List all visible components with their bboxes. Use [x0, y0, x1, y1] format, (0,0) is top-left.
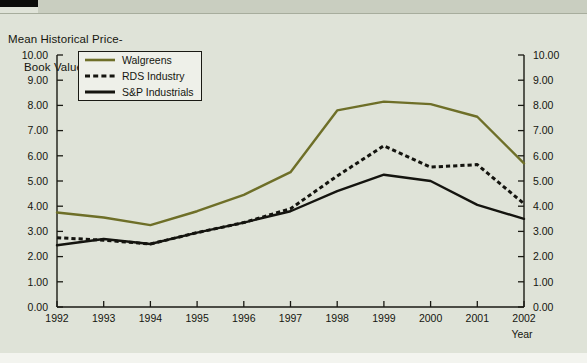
x-axis-title: Year — [511, 328, 533, 340]
y-axis-tick-label-left: 10.00 — [22, 49, 48, 61]
legend-item-walgreens: Walgreens — [79, 52, 201, 68]
solid-line-swatch-icon — [84, 55, 116, 65]
y-axis-tick-label-left: 9.00 — [28, 74, 49, 86]
x-axis-tick-label: 1997 — [279, 312, 303, 324]
dashed-line-swatch-icon — [84, 71, 116, 81]
series-line-s-p-industrials — [57, 175, 524, 246]
y-axis-tick-label-right: 2.00 — [533, 250, 554, 262]
x-axis-tick-label: 1999 — [372, 312, 396, 324]
bottom-strip-decoration — [0, 353, 587, 363]
x-axis-tick-label: 1994 — [139, 312, 163, 324]
y-axis-tick-label-left: 5.00 — [28, 175, 49, 187]
legend-label-sp-industrials: S&P Industrials — [122, 87, 194, 98]
x-axis-tick-label: 1996 — [232, 312, 256, 324]
solid-line-swatch-icon — [84, 87, 116, 97]
y-axis-tick-label-right: 7.00 — [533, 124, 554, 136]
x-axis-tick-label: 1998 — [326, 312, 350, 324]
y-axis-tick-label-left: 2.00 — [28, 250, 49, 262]
series-line-walgreens — [57, 102, 524, 225]
y-axis-tick-label-left: 7.00 — [28, 124, 49, 136]
y-axis-tick-label-right: 1.00 — [533, 276, 554, 288]
y-axis-tick-label-left: 0.00 — [28, 301, 49, 313]
y-axis-tick-label-left: 8.00 — [28, 99, 49, 111]
chart-legend: Walgreens RDS Industry S&P Industrials — [78, 51, 202, 101]
x-axis-tick-label: 1995 — [185, 312, 209, 324]
x-axis-tick-label: 1993 — [92, 312, 116, 324]
y-axis-tick-label-right: 6.00 — [533, 150, 554, 162]
x-axis-tick-label: 1992 — [45, 312, 69, 324]
y-axis-tick-label-left: 1.00 — [28, 276, 49, 288]
y-axis-tick-label-right: 3.00 — [533, 225, 554, 237]
legend-label-walgreens: Walgreens — [122, 55, 172, 66]
chart-page: Mean Historical Price- Book Value Ratios… — [0, 0, 587, 363]
y-axis-tick-label-right: 10.00 — [533, 49, 559, 61]
y-axis-tick-label-right: 0.00 — [533, 301, 554, 313]
x-axis-tick-label: 2001 — [466, 312, 490, 324]
y-axis-tick-label-left: 6.00 — [28, 150, 49, 162]
legend-item-sp-industrials: S&P Industrials — [79, 84, 201, 100]
legend-label-rds-industry: RDS Industry — [122, 71, 184, 82]
y-axis-tick-label-right: 8.00 — [533, 99, 554, 111]
x-axis-tick-label: 2002 — [512, 312, 536, 324]
y-axis-tick-label-left: 4.00 — [28, 200, 49, 212]
legend-item-rds-industry: RDS Industry — [79, 68, 201, 84]
y-axis-tick-label-right: 9.00 — [533, 74, 554, 86]
y-axis-tick-label-left: 3.00 — [28, 225, 49, 237]
x-axis-tick-label: 2000 — [419, 312, 443, 324]
series-line-rds-industry — [57, 146, 524, 244]
y-axis-tick-label-right: 4.00 — [533, 200, 554, 212]
y-axis-tick-label-right: 5.00 — [533, 175, 554, 187]
